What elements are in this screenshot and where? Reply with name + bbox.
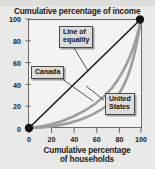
x-tick-label-100: 100 (133, 135, 149, 144)
annotation-canada: Canada (31, 66, 64, 79)
y-tick-label-80: 80 (1, 37, 21, 46)
annotation-canada-line1: Canada (35, 68, 60, 76)
y-tick-label-0: 0 (1, 125, 21, 134)
leader-line-canada (58, 76, 93, 101)
y-tick-label-60: 60 (1, 59, 21, 68)
origin-dot-marker (25, 124, 33, 132)
x-tick-label-80: 80 (111, 135, 127, 144)
annotation-united-states: United States (105, 93, 135, 115)
x-tick-label-40: 40 (66, 135, 82, 144)
x-tick-label-0: 0 (21, 135, 37, 144)
x-tick-label-20: 20 (44, 135, 60, 144)
annotation-united-states-line1: United (109, 95, 131, 103)
x-axis-title: Cumulative percentage of households (28, 146, 146, 165)
x-axis-title-line2: of households (28, 155, 146, 164)
annotation-line-of-equality-line1: Line of (63, 28, 89, 36)
x-axis-ticks (29, 128, 141, 133)
y-tick-label-40: 40 (1, 81, 21, 90)
annotation-line-of-equality-line2: equality (63, 36, 89, 44)
x-axis-title-line1: Cumulative percentage (28, 146, 146, 155)
x-tick-label-60: 60 (89, 135, 105, 144)
leader-line-equality (74, 48, 88, 71)
y-tick-label-100: 100 (1, 15, 21, 24)
y-tick-label-20: 20 (1, 102, 21, 111)
annotation-line-of-equality: Line of equality (59, 26, 93, 48)
figure-container: Cumulative percentage of income (0, 0, 155, 169)
endpoint-dot-marker (136, 15, 144, 23)
annotation-united-states-line2: States (109, 103, 131, 111)
